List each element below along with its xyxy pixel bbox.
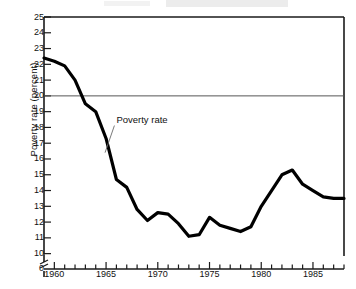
poverty-rate-chart-figure: Poverty rate (percent) 25242322212019181…	[0, 0, 356, 289]
series-annotation-label: Poverty rate	[116, 115, 167, 125]
plot-canvas	[0, 0, 356, 289]
